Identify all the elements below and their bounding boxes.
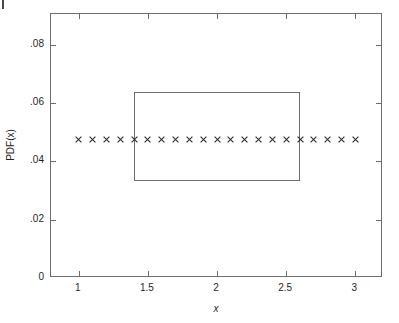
data-point-marker [297, 136, 304, 143]
data-point-marker [269, 136, 276, 143]
x-axis-label: x [214, 303, 219, 314]
x-axis-tick [217, 271, 218, 276]
data-point-marker [214, 136, 221, 143]
data-point-marker [352, 136, 359, 143]
y-axis-label: PDF(x) [5, 129, 16, 161]
y-axis-tick [376, 220, 381, 221]
y-tick-label: .02 [18, 214, 44, 224]
x-tick-label: 2 [213, 283, 219, 293]
data-point-marker [241, 136, 248, 143]
y-axis-tick [51, 161, 56, 162]
x-tick-label: 3 [352, 283, 358, 293]
data-point-marker [200, 136, 207, 143]
data-point-marker [255, 136, 262, 143]
x-axis-tick [355, 14, 356, 19]
data-point-marker [158, 136, 165, 143]
data-point-marker [117, 136, 124, 143]
plot-frame [50, 13, 382, 277]
x-tick-label: 1.5 [140, 283, 154, 293]
data-point-marker [324, 136, 331, 143]
y-axis-tick [376, 45, 381, 46]
corner-tick-mark [2, 0, 4, 9]
data-point-marker [283, 136, 290, 143]
data-point-marker [89, 136, 96, 143]
y-axis-tick [51, 45, 56, 46]
data-point-marker [338, 136, 345, 143]
x-axis-tick [79, 14, 80, 19]
data-point-marker [131, 136, 138, 143]
x-axis-tick [148, 271, 149, 276]
y-tick-label: .08 [18, 39, 44, 49]
y-tick-label: .06 [18, 97, 44, 107]
data-point-marker [227, 136, 234, 143]
data-point-marker [144, 136, 151, 143]
data-point-marker [172, 136, 179, 143]
x-tick-label: 2.5 [278, 283, 292, 293]
x-axis-tick [286, 14, 287, 19]
data-point-marker [75, 136, 82, 143]
y-axis-tick [376, 161, 381, 162]
y-axis-tick [51, 220, 56, 221]
x-axis-tick [355, 271, 356, 276]
x-axis-tick [148, 14, 149, 19]
x-tick-label: 1 [75, 283, 81, 293]
data-point-marker [310, 136, 317, 143]
x-axis-tick [217, 14, 218, 19]
data-point-marker [186, 136, 193, 143]
y-tick-label: 0 [18, 272, 44, 282]
x-axis-tick [79, 271, 80, 276]
x-axis-tick [286, 271, 287, 276]
y-axis-tick [51, 103, 56, 104]
pdf-scatter-chart: x PDF(x) 11.522.530.02.04.06.08 [0, 0, 399, 323]
y-tick-label: .04 [18, 155, 44, 165]
y-axis-tick [376, 103, 381, 104]
data-point-marker [103, 136, 110, 143]
